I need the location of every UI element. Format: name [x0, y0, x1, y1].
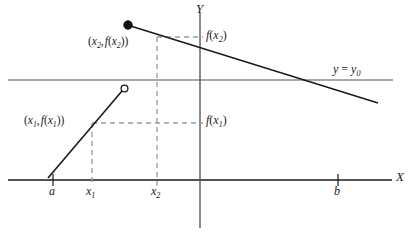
x-axis-label: X	[396, 170, 404, 183]
tick-label-x1-sub: 1	[91, 191, 95, 200]
open-circle-marker	[121, 85, 128, 92]
curve-left-branch	[48, 91, 122, 178]
tick-label-x1: x1	[86, 185, 95, 201]
point-label-x1: (x1, f(x1))	[24, 115, 64, 129]
filled-circle-marker	[124, 21, 132, 29]
tick-label-b: b	[334, 185, 340, 197]
function-diagram: Y X a x1 x2 b (x2, f(x2)) (x1, f(x1)) f(…	[0, 0, 414, 233]
point-label-x2: (x2, f(x2))	[88, 36, 128, 50]
paren-close: )	[61, 114, 65, 126]
reference-line-label: y = y0	[333, 63, 361, 79]
tick-label-x2: x2	[151, 185, 160, 201]
value-label-f-x1: f(x1)	[206, 114, 227, 130]
y-axis-label: Y	[196, 2, 203, 15]
paren-close: )	[223, 28, 227, 42]
tick-label-a: a	[49, 185, 55, 197]
value-label-f-x2: f(x2)	[206, 29, 227, 45]
equals-sign: =	[338, 62, 351, 76]
y0-subscript: 0	[356, 69, 360, 78]
paren-close: )	[125, 35, 129, 47]
tick-label-x2-sub: 2	[156, 191, 160, 200]
paren-close: )	[223, 113, 227, 127]
